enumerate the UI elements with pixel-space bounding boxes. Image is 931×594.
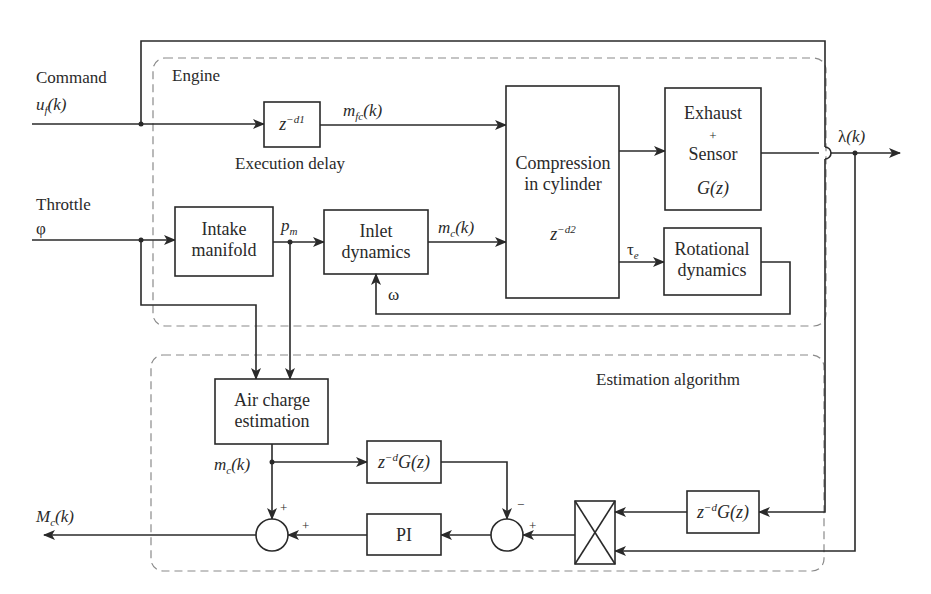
command-label: Command bbox=[36, 68, 107, 87]
lambda-label: λ(k) bbox=[838, 127, 865, 146]
compression-line1: Compression bbox=[515, 153, 610, 173]
estimation-group-label: Estimation algorithm bbox=[596, 370, 740, 389]
throttle-signal-label: φ bbox=[36, 219, 46, 238]
rotational-line2: dynamics bbox=[678, 260, 747, 280]
summing-junction-right bbox=[491, 519, 523, 551]
throttle-label: Throttle bbox=[36, 195, 91, 214]
sum-left-right-sign: + bbox=[302, 518, 309, 533]
mfc-label: mfc(k) bbox=[343, 101, 382, 122]
air-charge-line2: estimation bbox=[235, 411, 310, 431]
command-signal-label: uf(k) bbox=[36, 95, 67, 116]
output-label: Mc(k) bbox=[35, 507, 74, 528]
compression-line2: in cylinder bbox=[524, 174, 601, 194]
sum-right-right-sign: + bbox=[529, 518, 536, 533]
omega-label: ω bbox=[388, 285, 399, 304]
exhaust-line3: Sensor bbox=[689, 144, 738, 164]
engine-group-label: Engine bbox=[172, 66, 220, 85]
execution-delay-caption: Execution delay bbox=[235, 154, 345, 173]
rotational-line1: Rotational bbox=[675, 239, 750, 259]
sum-left-top-sign: + bbox=[280, 500, 287, 515]
pi-label: PI bbox=[396, 525, 412, 545]
mc-est-label: mc(k) bbox=[214, 455, 250, 476]
air-charge-line1: Air charge bbox=[234, 390, 310, 410]
command-to-model-right-arrow bbox=[759, 159, 825, 512]
exhaust-tf: G(z) bbox=[697, 178, 729, 199]
inlet-dynamics-line1: Inlet bbox=[360, 221, 393, 241]
intake-manifold-line2: manifold bbox=[192, 240, 257, 260]
block-diagram: Engine Estimation algorithm Command uf(k… bbox=[0, 0, 931, 594]
exhaust-plus: + bbox=[709, 128, 716, 143]
exhaust-line1: Exhaust bbox=[684, 103, 742, 123]
model-top-to-sum-arrow bbox=[441, 462, 507, 519]
tau-e-label: τe bbox=[627, 240, 639, 261]
model-delay-right-tf: z−dG(z) bbox=[696, 501, 749, 523]
inlet-dynamics-line2: dynamics bbox=[342, 242, 411, 262]
model-delay-top-tf: z−dG(z) bbox=[377, 451, 430, 473]
pm-label: pm bbox=[280, 216, 298, 237]
intake-manifold-line1: Intake bbox=[202, 219, 247, 239]
sum-right-top-sign: − bbox=[517, 497, 524, 512]
summing-junction-left bbox=[256, 519, 288, 551]
mc-engine-label: mc(k) bbox=[438, 218, 474, 239]
